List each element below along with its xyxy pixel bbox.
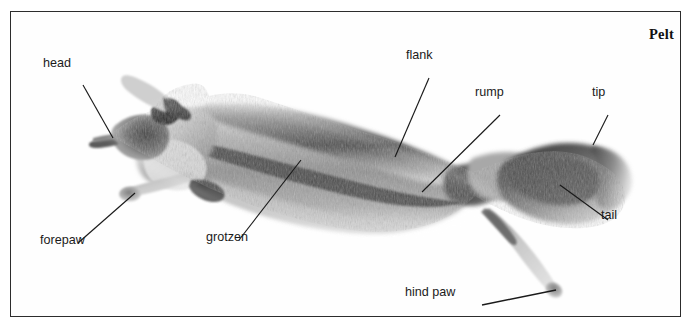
pelt-forepaw	[119, 187, 141, 202]
label-grotzen: grotzen	[206, 231, 248, 244]
pelt-figure: head forepaw grotzen flank rump tip tail…	[0, 0, 692, 329]
head-leader-line	[83, 85, 113, 138]
label-head: head	[43, 57, 71, 70]
label-forepaw: forepaw	[40, 234, 85, 247]
hind-paw-leader-line	[482, 290, 556, 305]
pelt-photograph	[11, 12, 680, 316]
label-tip: tip	[592, 86, 605, 99]
pelt-body	[89, 72, 651, 302]
forepaw-leader-line	[78, 193, 135, 243]
pelt-artwork	[11, 12, 680, 316]
label-rump: rump	[475, 86, 504, 99]
label-hind-paw: hind paw	[405, 286, 455, 299]
label-tail: tail	[601, 209, 617, 222]
figure-title: Pelt	[649, 26, 674, 43]
tip-leader-line	[593, 115, 608, 145]
flank-leader-line	[395, 78, 429, 157]
label-flank: flank	[406, 49, 433, 62]
